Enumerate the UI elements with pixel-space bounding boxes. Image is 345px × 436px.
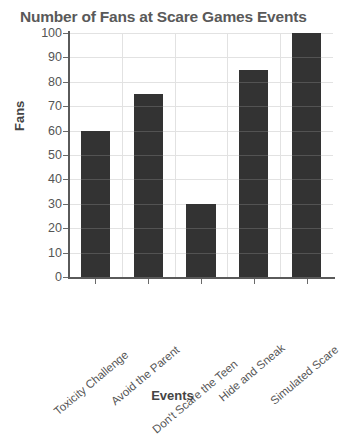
- x-axis-tick: [95, 279, 96, 284]
- bar-gridline: [81, 155, 110, 156]
- gridline: [227, 33, 228, 277]
- bar-gridline: [292, 131, 321, 132]
- bar-gridline: [292, 228, 321, 229]
- bar-gridline: [134, 155, 163, 156]
- y-axis-tick: [63, 82, 68, 83]
- gridline: [175, 33, 176, 277]
- y-axis-tick-label: 50: [18, 148, 62, 162]
- x-axis-tick: [148, 279, 149, 284]
- bar-gridline: [81, 179, 110, 180]
- y-axis-tick-label: 20: [18, 221, 62, 235]
- y-axis-tick-label: 40: [18, 172, 62, 186]
- bar-gridline: [186, 253, 215, 254]
- bar-gridline: [292, 82, 321, 83]
- bar-gridline: [81, 204, 110, 205]
- x-axis-tick: [201, 279, 202, 284]
- plot-area: [69, 33, 333, 277]
- y-axis-tick-label: 100: [18, 26, 62, 40]
- bar-gridline: [134, 228, 163, 229]
- y-axis-tick-label: 30: [18, 197, 62, 211]
- bar-gridline: [239, 82, 268, 83]
- x-axis-tick: [307, 279, 308, 284]
- bar-gridline: [292, 57, 321, 58]
- bar-gridline: [186, 228, 215, 229]
- bar-gridline: [292, 155, 321, 156]
- y-axis-tick: [63, 106, 68, 107]
- bar: [186, 204, 215, 277]
- bar-gridline: [239, 131, 268, 132]
- y-axis-title: Fans: [12, 101, 27, 131]
- bar-gridline: [239, 253, 268, 254]
- gridline: [122, 33, 123, 277]
- bar-gridline: [81, 253, 110, 254]
- bar-gridline: [134, 204, 163, 205]
- y-axis-tick: [63, 57, 68, 58]
- y-axis-tick-label: 10: [18, 246, 62, 260]
- chart-title: Number of Fans at Scare Games Events: [20, 8, 340, 26]
- bar: [292, 33, 321, 277]
- bar-gridline: [239, 106, 268, 107]
- y-axis-tick: [63, 204, 68, 205]
- bar-gridline: [239, 179, 268, 180]
- bar-gridline: [134, 179, 163, 180]
- y-axis-tick: [63, 253, 68, 254]
- bar-gridline: [134, 106, 163, 107]
- bar-gridline: [292, 253, 321, 254]
- x-axis-tick: [254, 279, 255, 284]
- bar-gridline: [292, 179, 321, 180]
- y-axis-tick: [63, 131, 68, 132]
- x-axis-title: Events: [0, 388, 345, 403]
- bar-gridline: [239, 204, 268, 205]
- bar-gridline: [239, 155, 268, 156]
- y-axis-tick: [63, 277, 68, 278]
- y-axis-tick: [63, 179, 68, 180]
- bar: [239, 70, 268, 277]
- bar-gridline: [134, 131, 163, 132]
- bar-gridline: [292, 204, 321, 205]
- y-axis-tick-label: 80: [18, 75, 62, 89]
- bar: [81, 131, 110, 277]
- gridline: [280, 33, 281, 277]
- y-axis-tick: [63, 33, 68, 34]
- bar-gridline: [81, 228, 110, 229]
- y-axis-tick-label: 90: [18, 50, 62, 64]
- bar-gridline: [292, 106, 321, 107]
- bar: [134, 94, 163, 277]
- y-axis-tick-label: 0: [18, 270, 62, 284]
- y-axis-line: [68, 31, 70, 279]
- x-axis-category-label: Toxicity Challenge: [52, 349, 131, 418]
- y-axis-tick: [63, 228, 68, 229]
- y-axis-tick-labels: 0102030405060708090100: [14, 0, 62, 412]
- bar-gridline: [239, 228, 268, 229]
- y-axis-tick: [63, 155, 68, 156]
- bar-gridline: [134, 253, 163, 254]
